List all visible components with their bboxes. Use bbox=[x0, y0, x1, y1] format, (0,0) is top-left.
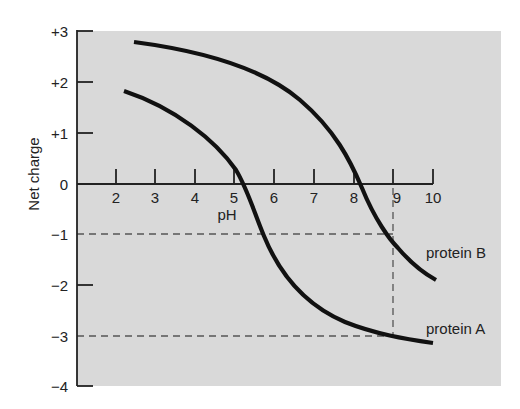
y-tick-label: +2 bbox=[51, 74, 68, 91]
y-axis-title: Net charge bbox=[25, 137, 42, 210]
chart: +3 +2 +1 0 −1 −2 −3 −4 2 3 4 5 6 7 8 9 1… bbox=[0, 0, 520, 409]
y-tick-label: −3 bbox=[51, 328, 68, 345]
y-tick-label: −1 bbox=[51, 226, 68, 243]
y-tick-labels: +3 +2 +1 0 −1 −2 −3 −4 bbox=[51, 23, 68, 395]
y-tick-label: +3 bbox=[51, 23, 68, 40]
y-tick-label: −4 bbox=[51, 378, 68, 395]
x-tick-label: 10 bbox=[425, 189, 442, 206]
x-tick-label: 9 bbox=[393, 189, 401, 206]
y-tick-label: +1 bbox=[51, 125, 68, 142]
x-tick-label: 5 bbox=[230, 189, 238, 206]
label-protein-a: protein A bbox=[426, 320, 485, 337]
x-tick-label: 4 bbox=[191, 189, 199, 206]
y-tick-label: 0 bbox=[60, 176, 68, 193]
y-tick-label: −2 bbox=[51, 277, 68, 294]
x-tick-label: 6 bbox=[270, 189, 278, 206]
x-tick-label: 8 bbox=[350, 189, 358, 206]
x-tick-label: 7 bbox=[310, 189, 318, 206]
x-tick-label: 2 bbox=[112, 189, 120, 206]
label-protein-b: protein B bbox=[426, 244, 486, 261]
x-tick-label: 3 bbox=[151, 189, 159, 206]
x-axis-title: pH bbox=[217, 206, 236, 223]
